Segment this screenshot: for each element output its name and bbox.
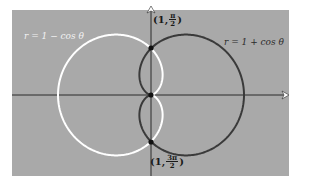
intersection-point-top (148, 45, 153, 50)
curve-label-one-plus-cos: r = 1 + cos θ (224, 37, 284, 47)
point-top-close: ) (177, 14, 182, 25)
intersection-point-bottom (148, 139, 153, 144)
point-bottom-close: ) (179, 156, 184, 167)
point-bottom-denominator: 2 (170, 162, 175, 169)
curve-label-one-minus-cos: r = 1 − cos θ (24, 31, 84, 41)
pole-point (148, 92, 153, 97)
point-label-bottom: (1, 3π 2 ) (150, 154, 184, 169)
point-bottom-fraction: 3π 2 (166, 154, 178, 169)
point-top-denominator: 2 (170, 20, 175, 27)
point-bottom-open: (1, (150, 156, 165, 167)
point-label-top: (1, π 2 ) (153, 12, 182, 27)
point-top-open: (1, (153, 14, 168, 25)
point-top-fraction: π 2 (169, 12, 176, 27)
